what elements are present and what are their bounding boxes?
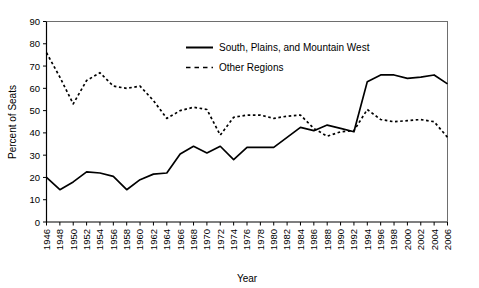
x-axis-tick-label: 1972 xyxy=(215,229,226,250)
x-axis-tick-label: 1986 xyxy=(308,229,319,250)
y-axis-tick-label: 50 xyxy=(29,105,40,116)
y-axis-tick-label: 90 xyxy=(29,16,40,27)
x-axis-tick-label: 1950 xyxy=(68,229,79,250)
x-axis-tick-label: 1990 xyxy=(335,229,346,250)
x-axis-tick-label: 1978 xyxy=(255,229,266,250)
x-axis-tick-label: 1984 xyxy=(295,229,306,250)
y-axis-tick-label: 80 xyxy=(29,38,40,49)
x-axis-tick-label: 1964 xyxy=(161,229,172,250)
chart-container: 0102030405060708090 19461948195019521954… xyxy=(0,0,479,288)
x-axis-tick-label: 1962 xyxy=(148,229,159,250)
x-axis-tick-label: 1952 xyxy=(81,229,92,250)
x-axis-tick-label: 1968 xyxy=(188,229,199,250)
x-axis-tick-label: 1982 xyxy=(282,229,293,250)
x-axis-tick-label: 1976 xyxy=(241,229,252,250)
x-axis-tick-label: 1992 xyxy=(348,229,359,250)
x-axis-tick-label: 1966 xyxy=(175,229,186,250)
x-axis-title: Year xyxy=(237,273,258,284)
legend-label-other-regions: Other Regions xyxy=(219,62,283,73)
x-axis-tick-label: 1998 xyxy=(388,229,399,250)
line-chart: 0102030405060708090 19461948195019521954… xyxy=(0,0,479,288)
x-axis-tick-label: 2000 xyxy=(402,229,413,250)
x-axis-tick-label: 1996 xyxy=(375,229,386,250)
y-axis-tick-label: 10 xyxy=(29,194,40,205)
y-axis-tick-label: 70 xyxy=(29,61,40,72)
y-axis-tick-label: 20 xyxy=(29,172,40,183)
x-axis-tick-label: 2004 xyxy=(429,229,440,250)
x-axis-tick-label: 1956 xyxy=(108,229,119,250)
x-axis-tick-label: 1946 xyxy=(41,229,52,250)
y-axis-tick-label: 40 xyxy=(29,127,40,138)
x-axis-tick-label: 1960 xyxy=(134,229,145,250)
y-axis-tick-label: 30 xyxy=(29,150,40,161)
x-axis-tick-labels: 1946194819501952195419561958196019621964… xyxy=(41,229,453,250)
x-axis-tick-label: 2002 xyxy=(415,229,426,250)
y-axis-title: Percent of Seats xyxy=(7,85,18,159)
x-axis-tick-label: 2006 xyxy=(442,229,453,250)
x-axis-tick-label: 1948 xyxy=(54,229,65,250)
x-axis-tick-label: 1974 xyxy=(228,229,239,250)
x-axis-tick-label: 1980 xyxy=(268,229,279,250)
x-axis-tick-label: 1988 xyxy=(322,229,333,250)
x-axis-tick-label: 1958 xyxy=(121,229,132,250)
legend-label-south-plains-mountain-west: South, Plains, and Mountain West xyxy=(219,42,370,53)
x-axis-tick-label: 1970 xyxy=(201,229,212,250)
y-axis-tick-label: 60 xyxy=(29,83,40,94)
x-axis-tick-label: 1994 xyxy=(362,229,373,250)
y-axis-tick-label: 0 xyxy=(35,217,40,228)
x-axis-tick-label: 1954 xyxy=(94,229,105,250)
